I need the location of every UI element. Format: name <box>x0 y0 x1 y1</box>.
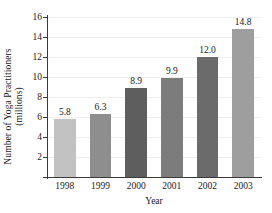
bar-1999[interactable]: 6.31999 <box>90 114 111 177</box>
chart-figure: Number of Yoga Practitioners (millions) … <box>0 0 272 213</box>
y-tick-label: 16 <box>33 12 43 22</box>
bar-value-label: 6.3 <box>95 102 107 112</box>
gridline <box>47 37 261 38</box>
y-tick-label: 14 <box>33 32 43 42</box>
gridline <box>47 137 261 138</box>
gridline <box>47 157 261 158</box>
x-tick-label: 2002 <box>198 181 217 191</box>
bar-1998[interactable]: 5.81998 <box>54 119 75 177</box>
x-tick-label: 2001 <box>162 181 181 191</box>
y-axis-title: Number of Yoga Practitioners (millions) <box>0 0 28 213</box>
y-tick-label: 12 <box>33 52 43 62</box>
x-axis-title: Year <box>47 196 261 206</box>
gridline <box>47 17 261 18</box>
gridline <box>47 117 261 118</box>
y-tick-mark <box>43 17 48 18</box>
x-tick-label: 2000 <box>127 181 146 191</box>
bar-value-label: 14.8 <box>235 17 252 27</box>
y-tick-mark <box>43 117 48 118</box>
bar-value-label: 8.9 <box>130 76 142 86</box>
y-tick-mark <box>43 37 48 38</box>
y-tick-label: 10 <box>33 72 43 82</box>
x-tick-label: 1998 <box>55 181 74 191</box>
gridline <box>47 57 261 58</box>
y-axis-title-line1: Number of Yoga Practitioners <box>3 48 14 164</box>
bar-value-label: 5.8 <box>59 107 71 117</box>
y-tick-label: 8 <box>37 92 42 102</box>
y-tick-mark <box>43 137 48 138</box>
y-tick-label: 6 <box>37 112 42 122</box>
y-tick-mark <box>43 97 48 98</box>
bar-2003[interactable]: 14.82003 <box>232 29 253 177</box>
gridline <box>47 77 261 78</box>
y-tick-mark <box>43 57 48 58</box>
x-tick-label: 1999 <box>91 181 110 191</box>
plot-area: 246810121416 5.819986.319998.920009.9200… <box>47 17 261 177</box>
y-tick-label: 2 <box>37 152 42 162</box>
y-axis-title-line2: (millions) <box>14 48 25 164</box>
x-tick-label: 2003 <box>234 181 253 191</box>
bar-2001[interactable]: 9.92001 <box>161 78 182 177</box>
bar-2002[interactable]: 12.02002 <box>197 57 218 177</box>
y-tick-label: 4 <box>37 132 42 142</box>
bar-value-label: 12.0 <box>199 45 216 55</box>
y-tick-mark <box>43 77 48 78</box>
x-axis-line <box>43 177 262 178</box>
gridline <box>47 97 261 98</box>
y-tick-mark <box>43 157 48 158</box>
bar-2000[interactable]: 8.92000 <box>125 88 146 177</box>
bar-value-label: 9.9 <box>166 66 178 76</box>
